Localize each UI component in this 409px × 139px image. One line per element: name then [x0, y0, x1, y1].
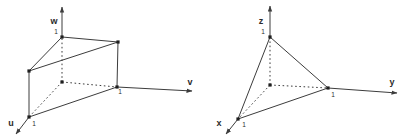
axis-label-x: x — [216, 118, 221, 128]
vertex-dot — [60, 80, 63, 83]
solid-edge-line — [238, 37, 270, 119]
solid-edge-line — [117, 42, 118, 87]
figure-xyz-simplex: zyx111 — [216, 6, 397, 134]
tick-label: 1 — [32, 120, 36, 127]
vertex-dot — [268, 35, 271, 38]
vertex-dot — [27, 115, 30, 118]
y-axis-line — [328, 88, 397, 93]
tick-label: 1 — [242, 121, 246, 128]
axis-label-w: w — [49, 16, 58, 26]
u-axis-line — [16, 117, 29, 134]
hidden-edge-line — [270, 85, 328, 88]
axis-label-z: z — [259, 16, 264, 26]
x-axis-line — [226, 119, 238, 134]
solid-edge-line — [29, 42, 118, 71]
tick-label: 1 — [331, 91, 335, 98]
solid-edge-line — [238, 88, 328, 119]
axis-label-u: u — [8, 118, 14, 128]
solid-edge-line — [29, 87, 117, 117]
solid-edge-line — [62, 37, 118, 42]
axis-label-v: v — [187, 77, 192, 87]
tick-label: 1 — [54, 28, 58, 35]
vertex-dot — [60, 35, 63, 38]
axis-label-y: y — [389, 77, 394, 87]
hidden-edge-line — [62, 82, 117, 87]
vertex-dot — [116, 40, 119, 43]
figure-canvas: wvu111 zyx111 — [0, 0, 409, 139]
diagram-svg: wvu111 zyx111 — [0, 0, 409, 139]
vertex-dot — [27, 69, 30, 72]
vertex-dot — [236, 117, 239, 120]
tick-label: 1 — [118, 88, 122, 95]
vertex-dot — [326, 86, 329, 89]
solid-edge-line — [270, 37, 328, 88]
v-axis-line — [117, 87, 192, 91]
tick-label: 1 — [261, 28, 265, 35]
figure-uvw-prism: wvu111 — [8, 7, 192, 134]
vertex-dot — [268, 83, 271, 86]
